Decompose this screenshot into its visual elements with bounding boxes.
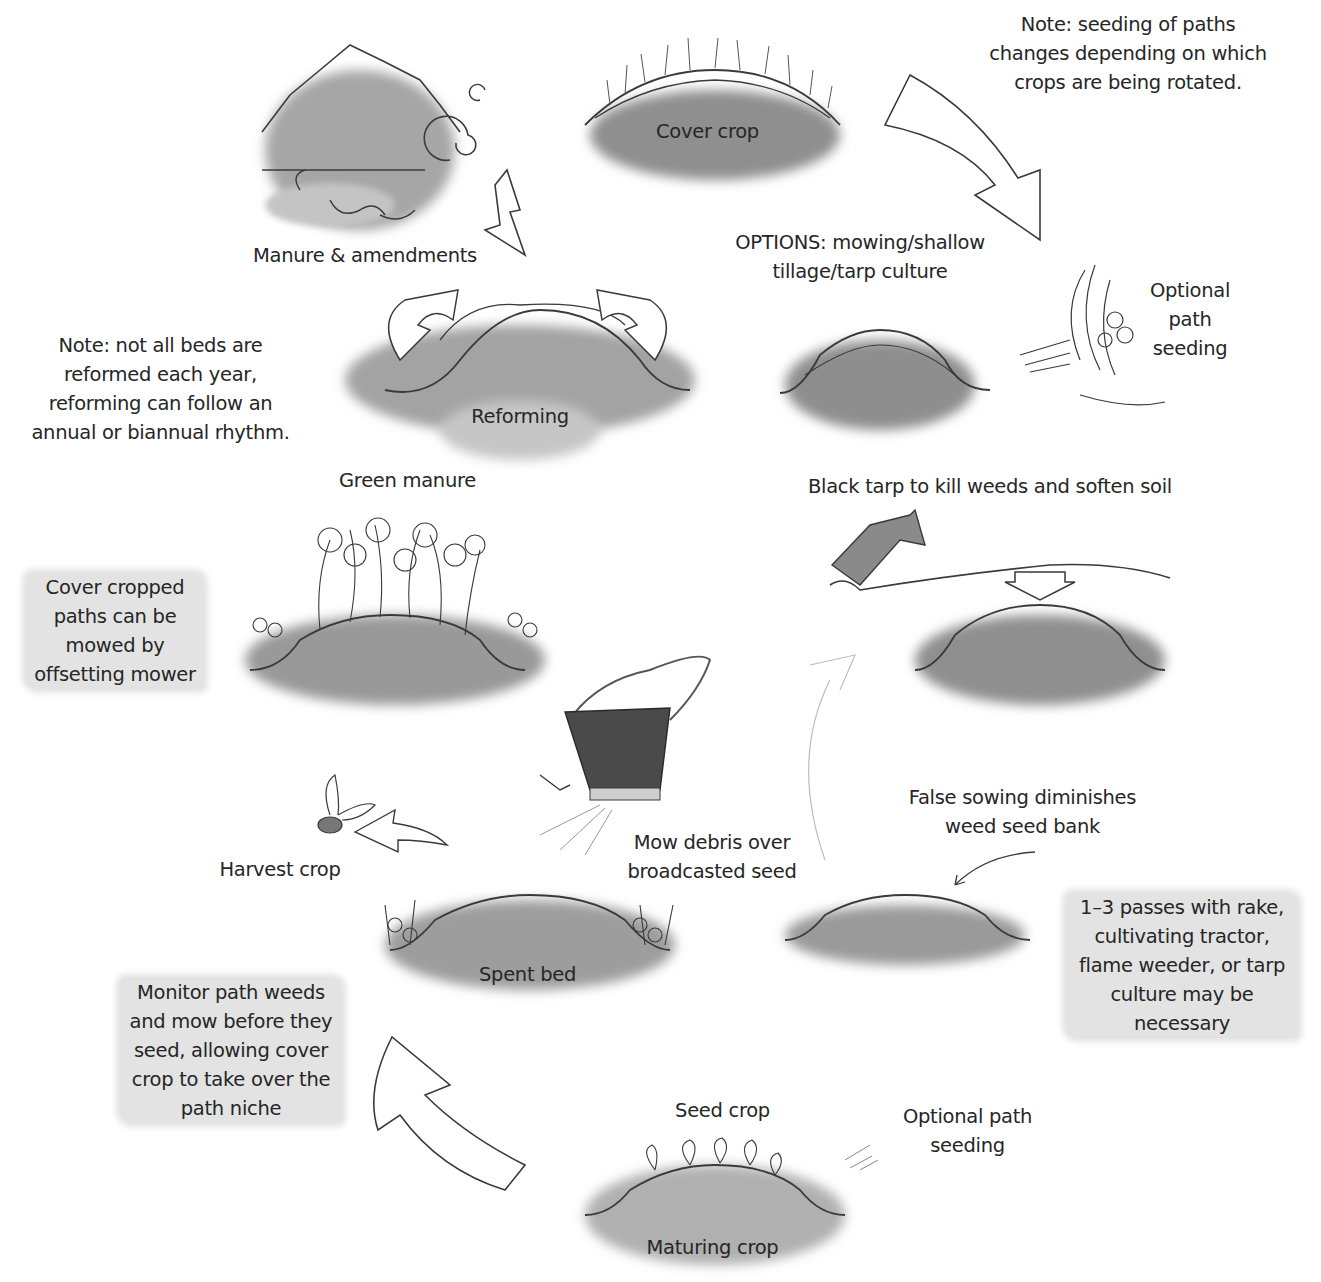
reforming-bed-drawing [345, 290, 695, 460]
cycle-arrow-top-right [885, 75, 1040, 240]
options-bed-drawing [780, 330, 990, 430]
label-green-manure: Green manure [325, 466, 490, 495]
faint-cycle-arrow [809, 655, 855, 860]
cover-crop-bed-drawing [585, 38, 840, 180]
label-optional-path-seeding-top: Optional path seeding [1130, 276, 1250, 363]
harvest-insect-drawing [318, 775, 375, 833]
label-seed-crop: Seed crop [665, 1096, 780, 1125]
label-maturing-crop: Maturing crop [630, 1233, 795, 1262]
label-cover-crop: Cover crop [640, 117, 775, 146]
callout-passes: 1–3 passes with rake, cultivating tracto… [1066, 893, 1298, 1038]
note-reforming-rhythm: Note: not all beds are reformed each yea… [18, 331, 303, 447]
label-spent-bed: Spent bed [470, 960, 585, 989]
black-tarp-drawing [830, 510, 1170, 705]
label-false-sowing: False sowing diminishes weed seed bank [895, 783, 1150, 841]
green-manure-bed-drawing [245, 518, 545, 705]
label-manure-amendments: Manure & amendments [240, 241, 490, 270]
callout-cover-cropped-paths: Cover cropped paths can be mowed by offs… [26, 573, 204, 689]
mower-drawing [540, 657, 710, 855]
label-black-tarp: Black tarp to kill weeds and soften soil [790, 472, 1190, 501]
callout-monitor-path-weeds: Monitor path weeds and mow before they s… [120, 978, 342, 1123]
note-path-seeding: Note: seeding of paths changes depending… [968, 10, 1288, 97]
harvest-arrow [355, 810, 447, 852]
manure-pile-drawing [262, 45, 485, 230]
label-options: OPTIONS: mowing/shallow tillage/tarp cul… [710, 228, 1010, 286]
cycle-arrow-bottom-left [374, 1037, 525, 1190]
label-mow-debris: Mow debris over broadcasted seed [612, 828, 812, 886]
label-reforming: Reforming [460, 402, 580, 431]
label-harvest-crop: Harvest crop [210, 855, 350, 884]
false-sowing-bed-drawing [785, 852, 1035, 965]
manure-arrow [485, 170, 525, 255]
label-optional-path-seeding-bottom: Optional path seeding [885, 1102, 1050, 1160]
